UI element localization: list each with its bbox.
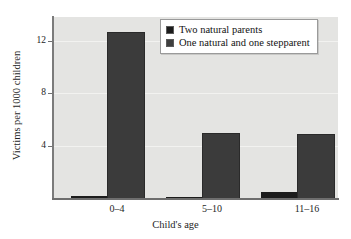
legend-swatch-icon-series-1: [166, 26, 174, 34]
xtick-label-5-10: 5–10: [166, 203, 258, 214]
bar-stepparent-0-4: [107, 32, 145, 199]
legend: Two natural parents One natural and one …: [160, 19, 318, 54]
gridline-4: [53, 146, 338, 147]
bar-stepparent-11-16: [297, 134, 335, 199]
y-axis-title: Victims per 1000 children: [11, 18, 22, 194]
ytick-label-12: 12: [0, 36, 46, 46]
legend-label-series-1: Two natural parents: [179, 23, 262, 36]
gridline-8: [53, 93, 338, 94]
x-axis-line: [52, 198, 339, 200]
bar-chart-figure: Two natural parents One natural and one …: [0, 0, 351, 239]
xtick-label-0-4: 0–4: [71, 203, 163, 214]
legend-label-series-2: One natural and one stepparent: [179, 36, 310, 49]
bar-stepparent-5-10: [202, 133, 240, 199]
plot-area: Two natural parents One natural and one …: [53, 17, 338, 199]
ytick-label-8: 8: [0, 88, 46, 98]
legend-entry-two-natural-parents: Two natural parents: [166, 23, 310, 36]
y-axis-line: [52, 16, 54, 200]
x-axis-title: Child's age: [0, 219, 351, 230]
ytick-label-4: 4: [0, 141, 46, 151]
legend-entry-stepparent: One natural and one stepparent: [166, 36, 310, 49]
legend-swatch-icon-series-2: [166, 39, 174, 47]
xtick-label-11-16: 11–16: [261, 203, 351, 214]
